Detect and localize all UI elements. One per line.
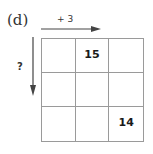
grid-cell	[42, 107, 76, 141]
grid-cell	[109, 39, 143, 73]
grid-cell: 15	[76, 39, 110, 73]
right-arrow-icon	[41, 26, 101, 32]
grid-cell	[42, 73, 76, 107]
grid-cell	[109, 73, 143, 107]
number-grid: 15 14	[41, 38, 144, 142]
grid-cell	[42, 39, 76, 73]
grid-cell	[76, 73, 110, 107]
grid-cell	[76, 107, 110, 141]
down-arrow-icon	[30, 37, 36, 96]
grid-cell: 14	[109, 107, 143, 141]
